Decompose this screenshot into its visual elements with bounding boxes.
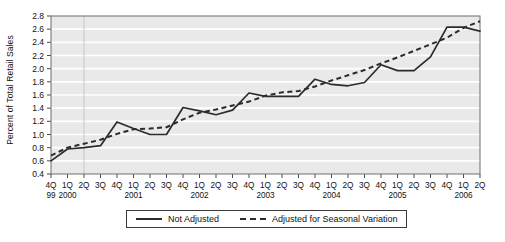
- chart-legend: Not Adjusted Adjusted for Seasonal Varia…: [126, 210, 407, 228]
- legend-swatch-dashed-line-icon: [240, 218, 266, 220]
- y-axis-tick-marks: [47, 16, 51, 174]
- legend-label-not-adjusted: Not Adjusted: [168, 214, 219, 224]
- chart-figure: Percent of Total Retail Sales 2.82.62.42…: [0, 0, 505, 242]
- legend-label-adjusted-for-seasonal-variation: Adjusted for Seasonal Variation: [272, 214, 397, 224]
- legend-swatch-solid-line-icon: [136, 218, 162, 220]
- x-axis-tick-marks: [51, 174, 480, 178]
- legend-entry-adjusted-for-seasonal-variation: Adjusted for Seasonal Variation: [240, 214, 397, 224]
- legend-entry-not-adjusted: Not Adjusted: [136, 214, 219, 224]
- plot-area: [0, 0, 505, 242]
